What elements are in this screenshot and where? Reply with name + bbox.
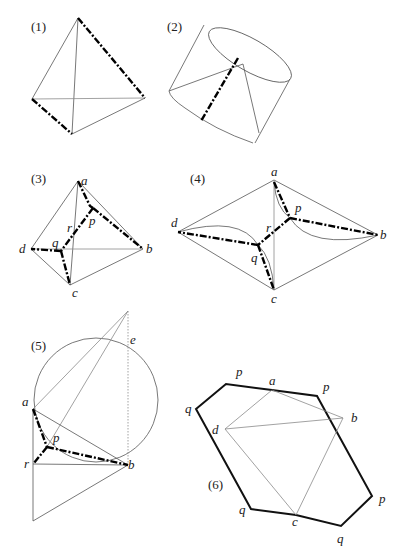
edge-dc xyxy=(225,429,296,515)
figure-label-6: (6) xyxy=(208,477,223,492)
dashdot-path xyxy=(290,218,378,235)
vertex-label-p: p xyxy=(235,364,243,379)
vertex-label-q: q xyxy=(52,235,59,250)
diagram-canvas: (1) (2) (3) a b c d p q xyxy=(0,0,400,554)
edge xyxy=(70,249,143,285)
vertex-label-r: r xyxy=(67,220,73,235)
vertex-label-p: p xyxy=(322,379,330,394)
line-ea xyxy=(33,311,128,409)
figure-4: (4) a b c d p q r xyxy=(171,164,387,306)
line-bottom xyxy=(33,465,128,521)
hidden-edge xyxy=(32,98,145,99)
figure-1: (1) xyxy=(31,18,145,134)
edge-db xyxy=(225,418,343,429)
vertex-label-a: a xyxy=(81,173,88,188)
dashdot-path xyxy=(34,447,47,463)
vertex-label-p: p xyxy=(294,200,302,215)
chord xyxy=(243,64,259,133)
vertex-label-d: d xyxy=(19,241,26,256)
edge-ad xyxy=(225,390,272,429)
vertex-label-r: r xyxy=(24,456,30,471)
vertex-label-p: p xyxy=(378,491,386,506)
dashdot-path xyxy=(33,409,47,447)
vertex-label-b: b xyxy=(351,410,358,425)
edge xyxy=(72,98,145,134)
line-rb xyxy=(33,464,128,465)
edge xyxy=(78,181,143,249)
dashdot-edge xyxy=(78,18,145,98)
figure-label-1: (1) xyxy=(31,19,46,34)
figure-2: (2) xyxy=(167,18,299,143)
vertex-label-c: c xyxy=(271,291,277,306)
vertex-label-p: p xyxy=(88,213,96,228)
figure-6: (6) a b c d p p p q q q xyxy=(185,364,386,546)
figure-label-4: (4) xyxy=(190,171,205,186)
right-generator xyxy=(255,79,290,143)
figure-5: (5) e a b p r xyxy=(22,311,158,521)
chord xyxy=(169,64,243,91)
bottom-arc xyxy=(169,91,253,143)
arc xyxy=(178,226,258,245)
vertex-label-b: b xyxy=(146,241,153,256)
vertex-label-p: p xyxy=(52,430,60,445)
vertex-label-q: q xyxy=(337,531,344,546)
vertex-label-c: c xyxy=(292,514,298,529)
figure-3: (3) a b c d p q r xyxy=(19,171,153,300)
vertex-label-b: b xyxy=(380,227,387,242)
dashdot-edge xyxy=(32,99,72,134)
vertex-label-a: a xyxy=(269,373,276,388)
dashdot-generator xyxy=(201,58,238,121)
dashdot-path xyxy=(61,251,70,285)
edge xyxy=(72,18,78,134)
dashdot-path xyxy=(178,232,258,245)
outline xyxy=(178,180,378,290)
edge-bc xyxy=(296,418,343,515)
line-ab xyxy=(33,409,128,465)
figure-label-3: (3) xyxy=(31,171,46,186)
vertex-label-e: e xyxy=(130,332,136,347)
vertex-label-a: a xyxy=(271,164,278,179)
vertex-label-c: c xyxy=(72,285,78,300)
dashdot-path xyxy=(258,245,274,290)
vertex-label-d: d xyxy=(171,215,178,230)
top-ellipse xyxy=(201,18,298,93)
vertex-label-a: a xyxy=(22,394,29,409)
vertex-label-b: b xyxy=(128,457,135,472)
vertex-label-q: q xyxy=(251,250,258,265)
vertex-label-q: q xyxy=(239,502,246,517)
figure-label-2: (2) xyxy=(167,19,182,34)
vertex-label-q: q xyxy=(185,401,192,416)
line-ep xyxy=(47,311,128,447)
vertex-label-d: d xyxy=(212,422,219,437)
dashdot-path xyxy=(93,208,143,249)
figure-label-5: (5) xyxy=(31,338,46,353)
left-generator xyxy=(169,25,204,91)
hexagon-outline xyxy=(196,384,372,526)
